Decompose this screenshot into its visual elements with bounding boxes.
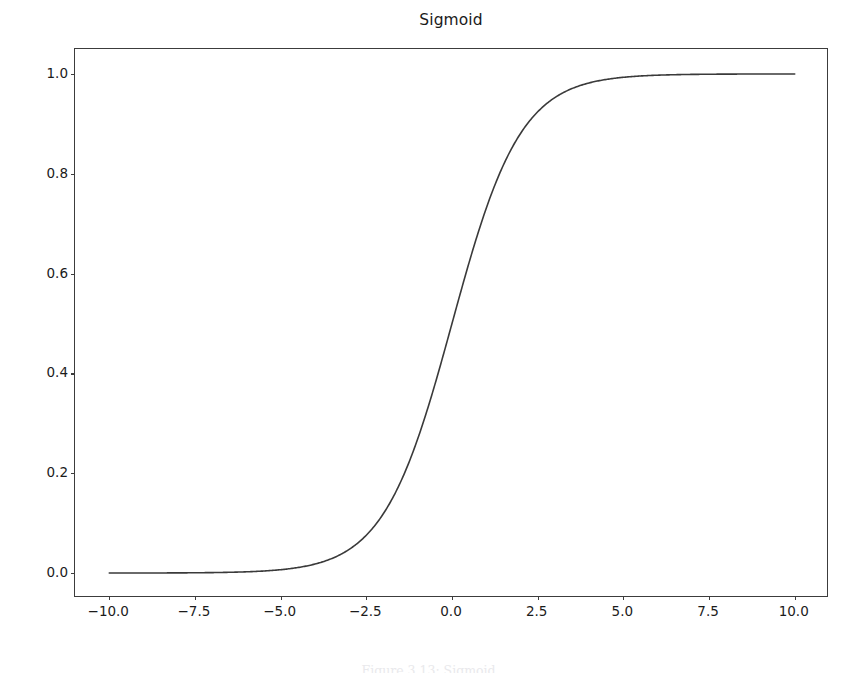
y-tick-label: 0.8 <box>47 165 68 181</box>
x-tick-label: −7.5 <box>178 603 211 619</box>
x-tick-label: −5.0 <box>263 603 296 619</box>
x-tick-label: −10.0 <box>88 603 129 619</box>
y-tick-mark <box>71 174 75 175</box>
sigmoid-curve-svg <box>75 49 829 598</box>
x-tick-label: 2.5 <box>526 603 547 619</box>
y-tick-label: 0.6 <box>47 265 68 281</box>
x-tick-mark <box>538 596 539 600</box>
y-tick-mark <box>71 74 75 75</box>
y-tick-mark <box>71 373 75 374</box>
x-tick-mark <box>109 596 110 600</box>
y-tick-label: 0.0 <box>47 564 68 580</box>
y-tick-label: 0.4 <box>47 364 68 380</box>
plot-area <box>74 48 828 597</box>
y-tick-mark <box>71 274 75 275</box>
chart-title: Sigmoid <box>74 11 828 29</box>
x-tick-label: 5.0 <box>612 603 633 619</box>
y-tick-label: 1.0 <box>47 65 68 81</box>
x-tick-mark <box>795 596 796 600</box>
x-tick-mark <box>195 596 196 600</box>
y-tick-label: 0.2 <box>47 464 68 480</box>
x-tick-label: −2.5 <box>349 603 382 619</box>
x-tick-label: 0.0 <box>440 603 461 619</box>
x-tick-mark <box>452 596 453 600</box>
x-tick-mark <box>281 596 282 600</box>
x-tick-label: 10.0 <box>779 603 809 619</box>
x-tick-mark <box>709 596 710 600</box>
x-tick-mark <box>366 596 367 600</box>
y-tick-mark <box>71 573 75 574</box>
y-tick-mark <box>71 473 75 474</box>
figure-caption: Figure 3.13: Sigmoid <box>0 664 857 673</box>
sigmoid-curve-path <box>109 74 794 573</box>
figure-canvas: Sigmoid −10.0−7.5−5.0−2.50.02.55.07.510.… <box>0 0 857 673</box>
x-tick-label: 7.5 <box>697 603 718 619</box>
x-tick-mark <box>623 596 624 600</box>
